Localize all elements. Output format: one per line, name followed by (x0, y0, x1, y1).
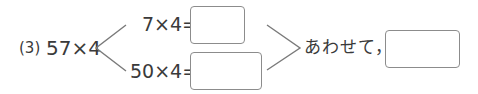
part-2-expression: 50×4= (130, 62, 198, 81)
part-1-answer-box[interactable] (190, 6, 245, 44)
part-2-answer-box[interactable] (190, 52, 262, 90)
combine-label: あわせて， (304, 39, 393, 56)
total-answer-box[interactable] (385, 30, 460, 68)
combine-bracket-icon (267, 25, 300, 70)
split-bracket-icon (96, 25, 126, 71)
